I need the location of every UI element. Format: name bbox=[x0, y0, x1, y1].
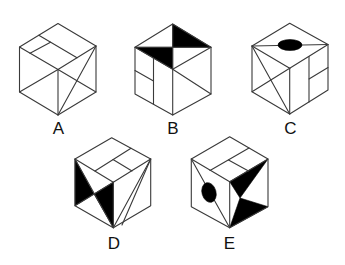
cube-d-right-diagonal-2 bbox=[122, 159, 151, 225]
cube-option-d[interactable]: D bbox=[75, 138, 151, 253]
cube-a-left-diagonal bbox=[20, 70, 59, 93]
option-label-a: A bbox=[53, 119, 65, 138]
cube-d-left-black-triangle-1 bbox=[75, 159, 94, 206]
cube-d-left-black-triangle-2 bbox=[94, 182, 113, 227]
cube-a-top-subdivider bbox=[30, 42, 51, 53]
cube-b-right-diagonal bbox=[173, 69, 211, 94]
cube-b-left-subdivider bbox=[135, 71, 154, 82]
option-label-b: B bbox=[167, 119, 178, 138]
option-label-d: D bbox=[108, 234, 120, 253]
cube-option-a[interactable]: A bbox=[20, 24, 97, 139]
cube-option-b[interactable]: B bbox=[135, 24, 211, 138]
cube-e-top-divider bbox=[210, 148, 249, 171]
cube-e-left-black-oval bbox=[200, 181, 219, 204]
cube-c-left-diagonal-2 bbox=[252, 68, 290, 91]
option-label-c: C bbox=[284, 119, 296, 138]
cube-d-right-diagonal-1 bbox=[113, 159, 150, 228]
cube-c-right-subdivider bbox=[309, 68, 328, 80]
cube-e-top-subdivider bbox=[229, 160, 249, 171]
cube-e-right-black-triangle-2 bbox=[230, 198, 268, 228]
cube-option-c[interactable]: C bbox=[252, 23, 328, 138]
cube-a-top-divider bbox=[39, 35, 77, 58]
cube-options-figure: A B C bbox=[0, 0, 345, 265]
option-label-e: E bbox=[224, 234, 235, 253]
cube-a-right-diagonal-2 bbox=[58, 46, 96, 115]
cube-option-e[interactable]: E bbox=[191, 137, 268, 253]
cube-c-top-black-oval bbox=[278, 40, 302, 51]
cube-d-top-subdivider bbox=[113, 160, 132, 172]
